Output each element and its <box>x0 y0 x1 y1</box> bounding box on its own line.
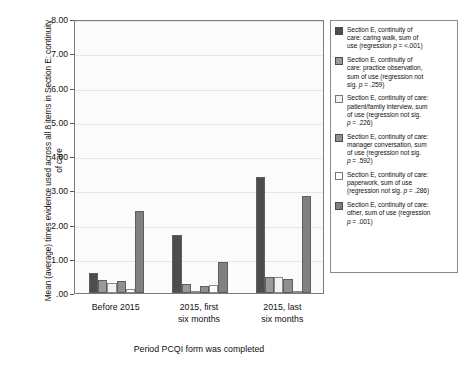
bar <box>191 291 200 293</box>
legend-label-line: manager conversation, sum <box>347 141 428 149</box>
x-category-label-line: six months <box>154 314 244 326</box>
x-category-label-line: 2015, first <box>154 302 244 314</box>
legend-label-line: p = .226) <box>347 119 428 127</box>
legend-label: Section E, continuity ofcare: practice o… <box>347 56 423 89</box>
x-category-label: Before 2015 <box>71 302 161 314</box>
legend-swatch-icon <box>335 95 343 103</box>
x-category-label-line: six months <box>237 314 327 326</box>
legend-label-line: other, sum of use (regression <box>347 209 430 217</box>
legend-item[interactable]: Section E, continuity of care:other, sum… <box>335 201 453 226</box>
y-tick-label: 1.00 <box>30 255 68 265</box>
bar <box>172 235 181 293</box>
legend-label-line: p = .001) <box>347 218 430 226</box>
legend-panel: Section E, continuity ofcare: caring wal… <box>330 20 458 273</box>
legend-label-line: paperwork, sum of use <box>347 179 429 187</box>
bar <box>265 277 274 293</box>
legend-label-line: patient/family interview, sum <box>347 103 428 111</box>
legend-label-line: Section E, continuity of <box>347 26 423 34</box>
y-tick-label: 6.00 <box>30 84 68 94</box>
bar <box>283 279 292 293</box>
legend-label: Section E, continuity of care:other, sum… <box>347 201 430 226</box>
legend-label-line: of use (regression not sig. <box>347 149 428 157</box>
bar <box>107 283 116 293</box>
legend-label-line: Section E, continuity of care: <box>347 201 430 209</box>
legend-label-line: use (regression p = <.001) <box>347 42 423 50</box>
legend-label: Section E, continuity ofcare: caring wal… <box>347 26 423 51</box>
plot-area <box>74 20 324 294</box>
bar <box>126 289 135 293</box>
legend-swatch-icon <box>335 134 343 142</box>
legend-item[interactable]: Section E, continuity ofcare: caring wal… <box>335 26 453 51</box>
x-category-label: 2015, firstsix months <box>154 302 244 325</box>
legend-item[interactable]: Section E, continuity of care:paperwork,… <box>335 171 453 196</box>
y-tick-label: 3.00 <box>30 186 68 196</box>
bar <box>209 285 218 293</box>
legend-item[interactable]: Section E, continuity of care:patient/fa… <box>335 94 453 127</box>
legend-label: Section E, continuity of care:manager co… <box>347 133 428 166</box>
y-tick-label: 7.00 <box>30 49 68 59</box>
legend-label-line: care: caring walk, sum of <box>347 34 423 42</box>
legend-label-line: p = .592) <box>347 157 428 165</box>
legend-label-line: Section E, continuity of care: <box>347 133 428 141</box>
y-tick-label: 2.00 <box>30 221 68 231</box>
bar <box>274 277 283 293</box>
x-axis-title: Period PCQI form was completed <box>74 344 324 354</box>
bar <box>218 262 227 294</box>
legend-label-line: care: practice observation, <box>347 64 423 72</box>
y-tick-label: 8.00 <box>30 15 68 25</box>
legend-label: Section E, continuity of care:patient/fa… <box>347 94 428 127</box>
bars-layer <box>75 21 323 293</box>
legend-label-line: (regression not sig. p = .286) <box>347 187 429 195</box>
bar <box>293 291 302 293</box>
legend-label-line: sum of use (regression not <box>347 73 423 81</box>
legend-swatch-icon <box>335 172 343 180</box>
legend-label-line: Section E, continuity of care: <box>347 171 429 179</box>
bar <box>117 281 126 293</box>
bar-chart-figure: Mean (average) times evidence used acros… <box>0 0 462 366</box>
legend-label-line: sig. p = .259) <box>347 81 423 89</box>
bar <box>89 273 98 293</box>
x-category-label: 2015, lastsix months <box>237 302 327 325</box>
x-category-label-line: Before 2015 <box>71 302 161 314</box>
legend-label-line: Section E, continuity of <box>347 56 423 64</box>
legend-label-line: of use (regression not sig. <box>347 111 428 119</box>
legend-label: Section E, continuity of care:paperwork,… <box>347 171 429 196</box>
bar <box>200 286 209 293</box>
y-tick-label: .00 <box>30 289 68 299</box>
legend-swatch-icon <box>335 27 343 35</box>
bar <box>98 280 107 293</box>
x-category-label-line: 2015, last <box>237 302 327 314</box>
bar <box>135 211 144 293</box>
legend-swatch-icon <box>335 57 343 65</box>
y-tick-mark <box>70 294 74 295</box>
y-tick-label: 4.00 <box>30 152 68 162</box>
legend-label-line: Section E, continuity of care: <box>347 94 428 102</box>
bar <box>182 284 191 293</box>
bar <box>256 177 265 293</box>
bar <box>302 196 311 293</box>
y-tick-label: 5.00 <box>30 118 68 128</box>
legend-item[interactable]: Section E, continuity of care:manager co… <box>335 133 453 166</box>
legend-swatch-icon <box>335 202 343 210</box>
legend-item[interactable]: Section E, continuity ofcare: practice o… <box>335 56 453 89</box>
